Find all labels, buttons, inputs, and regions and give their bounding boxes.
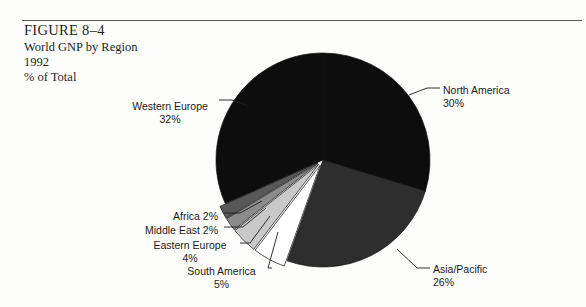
slice-label-south-america: South America 5% [175,265,268,291]
figure-container: FIGURE 8–4 World GNP by Region 1992 % of… [0,0,586,307]
slice-label-name: Western Europe [132,100,208,112]
slice-label-name: South America [187,265,255,277]
slice-label-name: Eastern Europe [154,239,227,251]
slice-label-value: 26% [433,276,487,289]
slice-label-asia-pacific: Asia/Pacific 26% [433,263,487,289]
slice-label-name: Middle East [145,224,200,236]
pie-slice-western-europe [216,53,323,204]
slice-label-name: Africa [173,210,200,222]
slice-label-value: 32% [118,113,222,126]
slice-label-africa: Africa 2% [146,210,218,223]
leader-line-asia-pacific [397,249,430,268]
slice-label-north-america: North America 30% [443,84,510,110]
pie-chart [0,0,586,307]
slice-label-western-europe: Western Europe 32% [118,100,222,126]
slice-label-eastern-europe: Eastern Europe 4% [143,239,237,265]
slice-label-middle-east: Middle East 2% [121,224,218,237]
slice-label-value: 5% [175,278,268,291]
slice-label-name: Asia/Pacific [433,263,487,275]
leader-line-north-america [409,88,440,95]
slice-label-value: 30% [443,97,510,110]
pie-slice-group [216,53,430,267]
slice-label-value: 2% [203,210,218,222]
slice-label-name: North America [443,84,510,96]
slice-label-value: 4% [143,252,237,265]
slice-label-value: 2% [203,224,218,236]
